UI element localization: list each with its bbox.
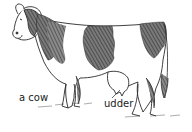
udder-label: udder xyxy=(104,99,133,109)
cow-diagram: a cow udder xyxy=(0,0,192,132)
cow-illustration xyxy=(0,0,192,132)
cow-label: a cow xyxy=(19,93,48,103)
